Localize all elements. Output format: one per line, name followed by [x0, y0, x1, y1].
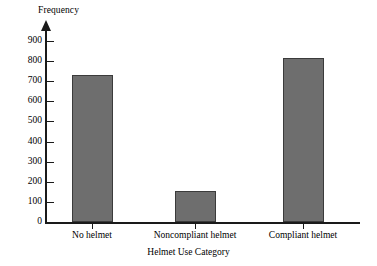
y-axis-tick-mark [47, 101, 54, 102]
y-axis-tick-mark [47, 182, 54, 183]
y-axis-tick-mark [47, 222, 54, 223]
bar [175, 191, 216, 222]
bar-chart-figure: Frequency 0100200300400500600700800900 N… [0, 0, 377, 266]
x-axis-category-label: No helmet [72, 230, 112, 241]
y-axis-tick-mark [47, 41, 54, 42]
x-axis-tick-mark [92, 224, 93, 229]
y-axis-tick-label: 600 [10, 96, 42, 106]
y-axis-tick-label: 100 [10, 197, 42, 207]
y-axis-title: Frequency [38, 5, 79, 16]
y-axis-tick-label: 800 [10, 56, 42, 66]
y-axis-tick-label-text: 0 [14, 217, 42, 227]
x-axis-tick-mark [303, 224, 304, 229]
y-axis-tick-label: 700 [10, 76, 42, 86]
y-axis-tick-mark [47, 81, 54, 82]
y-axis-tick-label: 400 [10, 137, 42, 147]
y-axis-tick-label: 200 [10, 177, 42, 187]
x-axis-title: Helmet Use Category [0, 247, 377, 258]
x-axis-tick-mark [195, 224, 196, 229]
x-axis-category-label: Compliant helmet [269, 230, 337, 241]
y-axis-tick-label-text: 500 [14, 116, 42, 126]
y-axis-tick-label-text: 200 [14, 177, 42, 187]
y-axis-tick-label-text: 700 [14, 76, 42, 86]
y-axis-tick-mark [47, 61, 54, 62]
y-axis-tick-label: 500 [10, 116, 42, 126]
y-axis-tick-mark [47, 162, 54, 163]
y-axis-tick-label-text: 800 [14, 56, 42, 66]
y-axis-tick-label-text: 100 [14, 197, 42, 207]
y-axis-tick-label-text: 600 [14, 96, 42, 106]
y-axis-tick-label: 300 [10, 157, 42, 167]
bar [283, 58, 324, 222]
y-axis-tick-label: 900 [10, 36, 42, 46]
y-axis-tick-mark [47, 202, 54, 203]
y-axis-line [45, 30, 47, 223]
y-axis-tick-mark [47, 142, 54, 143]
y-axis-tick-label-text: 400 [14, 137, 42, 147]
y-axis-tick-label-text: 300 [14, 157, 42, 167]
y-axis-tick-label: 0 [10, 217, 42, 227]
x-axis-category-label: Noncompliant helmet [154, 230, 237, 241]
y-axis-tick-mark [47, 121, 54, 122]
y-axis-tick-label-text: 900 [14, 36, 42, 46]
bar [72, 75, 113, 222]
